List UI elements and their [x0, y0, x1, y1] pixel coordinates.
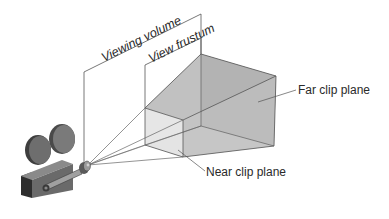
far-clip-plane-label: Far clip plane — [298, 83, 370, 97]
view-frustum-diagram: Viewing volume View frustum Far clip pla… — [0, 0, 389, 219]
movie-camera-icon — [21, 124, 91, 198]
viewing-volume-label: Viewing volume — [99, 13, 183, 65]
frustum — [145, 54, 276, 157]
near-clip-plane-label: Near clip plane — [206, 165, 286, 179]
